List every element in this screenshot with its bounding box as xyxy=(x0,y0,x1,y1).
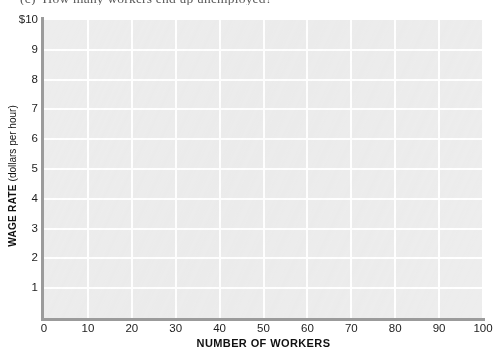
x-tick-label: 10 xyxy=(68,322,108,334)
x-tick-label: 80 xyxy=(375,322,415,334)
gridline-horizontal xyxy=(44,287,483,289)
x-tick-label: 100 xyxy=(463,322,498,334)
x-tick-label: 0 xyxy=(24,322,64,334)
y-tick-label: 2 xyxy=(4,252,38,264)
gridline-horizontal xyxy=(44,198,483,200)
gridline-horizontal xyxy=(44,138,483,140)
x-tick-label: 30 xyxy=(156,322,196,334)
x-tick-label: 70 xyxy=(331,322,371,334)
gridline-horizontal xyxy=(44,228,483,230)
y-axis-title: WAGE RATE (dollars per hour) xyxy=(3,100,21,252)
gridline-horizontal xyxy=(44,257,483,259)
y-tick-label: 9 xyxy=(4,44,38,56)
gridline-horizontal xyxy=(44,79,483,81)
y-axis-line xyxy=(41,17,44,321)
gridline-horizontal xyxy=(44,168,483,170)
x-tick-label: 90 xyxy=(419,322,459,334)
y-tick-label: 8 xyxy=(4,74,38,86)
plot-area xyxy=(44,20,483,318)
y-tick-label: $10 xyxy=(4,14,38,26)
x-tick-label: 40 xyxy=(200,322,240,334)
gridline-horizontal xyxy=(44,49,483,51)
graph-figure: 123456789$10 0102030405060708090100 WAGE… xyxy=(0,0,498,354)
x-tick-label: 60 xyxy=(287,322,327,334)
x-axis-title: NUMBER OF WORKERS xyxy=(44,337,483,349)
y-axis-title-main: WAGE RATE xyxy=(7,184,18,247)
x-axis-line xyxy=(41,318,485,321)
y-tick-label: 1 xyxy=(4,282,38,294)
y-axis-title-unit: (dollars per hour) xyxy=(7,105,18,181)
x-tick-label: 50 xyxy=(244,322,284,334)
x-tick-label: 20 xyxy=(112,322,152,334)
gridline-horizontal xyxy=(44,108,483,110)
